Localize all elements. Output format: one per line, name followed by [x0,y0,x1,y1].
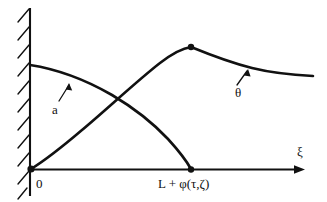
axis-label-xi: ξ [297,145,303,158]
curve-label-a: a [52,103,58,116]
marker-origin [27,165,34,172]
marker-foot [188,166,194,172]
curve-theta-tail [191,47,313,76]
figure-container: a θ ξ 0 L + φ(τ,ζ) [0,0,327,202]
marker-peak [188,44,194,50]
tick-label-endpoint: L + φ(τ,ζ) [158,177,209,190]
leader-arrow-a-icon [66,83,73,90]
arrowhead-right-icon [294,165,305,174]
tick-label-origin: 0 [36,177,43,190]
curve-label-theta: θ [235,86,241,99]
hatched-wall-icon [18,9,29,199]
diagram-canvas [0,0,327,202]
